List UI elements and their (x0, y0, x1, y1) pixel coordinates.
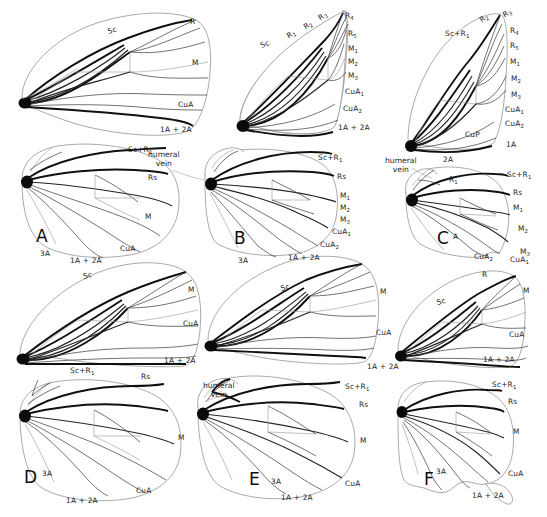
wing-shape-forewing-e (205, 256, 379, 364)
vein-label-subscript: 4 (515, 30, 518, 36)
vein-label-b-hindwing-[object Object]: Sc+R1 (318, 154, 342, 163)
humeral-vein-e-line1: humeral (203, 381, 235, 390)
humeral-vein-a-line2: vein (148, 159, 180, 168)
vein-label-c-hindwing-[object Object]: A (453, 233, 458, 240)
vein-label-a-forewing-[object Object]: M (192, 59, 199, 66)
vein-label-subscript: 1 (348, 231, 351, 237)
vein-label-b-forewing-[object Object]: R5 (348, 30, 357, 39)
vein-label-d-forewing-[object Object]: M (188, 286, 195, 293)
vein-label-subscript: 2 (521, 123, 524, 129)
vein-label-subscript: 5 (353, 33, 356, 39)
venation-plate: ScRMCuA1A + 2ASc+R1RsMCuA1A + 2A3AAScR1R… (0, 0, 547, 517)
vein-label-c-forewing-[object Object]: R5 (510, 42, 519, 51)
vein-label-c-forewing-[object Object]: CuP (465, 131, 480, 138)
vein-label-subscript: 2 (347, 207, 350, 213)
vein-label-d-forewing-[object Object]: Sc (82, 271, 93, 280)
vein-label-e-hindwing-[object Object]: Sc+R1 (345, 383, 369, 392)
vein-label-subscript: 1 (517, 61, 520, 67)
vein-label-b-forewing-[object Object]: R4 (345, 12, 354, 21)
vein-label-b-forewing-[object Object]: M1 (348, 45, 358, 54)
vein-label-subscript: 2 (355, 61, 358, 67)
humeral-vein-c-line1: humeral (385, 156, 417, 165)
vein-label-c-forewing-[object Object]: Sc+R1 (445, 30, 469, 39)
vein-label-subscript: 1 (466, 33, 469, 39)
vein-label-subscript: 3 (347, 219, 350, 225)
vein-label-c-forewing-[object Object]: M2 (511, 75, 521, 84)
vein-label-b-hindwing-[object Object]: 3A (238, 257, 248, 264)
vein-label-c-forewing-[object Object]: R4 (510, 27, 519, 36)
vein-label-b-hindwing-[object Object]: M1 (340, 192, 350, 201)
vein-label-subscript: 2 (336, 244, 339, 250)
humeral-vein-a-line1: humeral (148, 150, 180, 159)
vein-label-e-forewing-[object Object]: Sc (280, 283, 291, 293)
vein-label-a-forewing-[object Object]: 1A + 2A (160, 126, 192, 133)
vein-label-subscript: 1 (454, 179, 457, 185)
vein-label-subscript: 1 (520, 207, 523, 213)
vein-label-subscript: 2 (359, 108, 362, 114)
vein-label-e-hindwing-[object Object]: 1A + 2A (281, 494, 313, 501)
vein-label-e-hindwing-[object Object]: Rs (359, 401, 368, 408)
vein-label-subscript: 1 (355, 48, 358, 54)
vein-label-f-forewing-[object Object]: Sc (436, 297, 447, 307)
humeral-vein-a: humeralvein (148, 150, 180, 169)
vein-label-d-forewing-[object Object]: CuA (183, 320, 199, 327)
vein-label-b-hindwing-[object Object]: M3 (340, 216, 350, 225)
vein-label-b-hindwing-[object Object]: 1A + 2A (288, 254, 320, 261)
vein-label-c-hindwing-[object Object]: M2 (518, 225, 528, 234)
vein-label-subscript: 1 (347, 195, 350, 201)
vein-label-e-hindwing-[object Object]: 3A (271, 478, 281, 485)
vein-label-subscript: 2 (525, 228, 528, 234)
vein-label-d-hindwing-[object Object]: 1A + 2A (66, 497, 98, 504)
panel-letter-e: E (249, 471, 260, 488)
vein-label-subscript: 2 (490, 256, 493, 262)
vein-label-b-forewing-[object Object]: CuA1 (345, 88, 364, 97)
vein-label-a-hindwing-[object Object]: 3A (40, 250, 50, 257)
vein-label-c-forewing-[object Object]: M1 (510, 58, 520, 67)
vein-label-b-hindwing-[object Object]: M2 (340, 204, 350, 213)
vein-label-f-hindwing-[object Object]: M (513, 428, 520, 435)
wing-shape-forewing-d (17, 263, 201, 367)
panel-letter-d: D (24, 469, 37, 486)
vein-label-a-hindwing-[object Object]: 1A + 2A (70, 257, 102, 264)
wing-shape-hindwing-f (397, 381, 514, 504)
vein-label-subscript: 1 (513, 384, 516, 390)
vein-label-c-forewing-[object Object]: 2A (443, 156, 453, 163)
vein-label-d-hindwing-[object Object]: M (178, 434, 185, 441)
vein-label-c-hindwing-[object Object]: M1 (513, 204, 523, 213)
vein-label-c-hindwing-[object Object]: CuA2 (474, 253, 493, 262)
wing-shape-hindwing-d (19, 380, 181, 501)
vein-label-c-hindwing-[object Object]: Sc+R1 (507, 171, 531, 180)
panel-letter-b: B (234, 230, 246, 247)
vein-label-b-forewing-[object Object]: 1A + 2A (338, 124, 370, 131)
humeral-vein-e: humeralvein (203, 381, 235, 400)
vein-label-e-forewing-[object Object]: M (380, 288, 387, 295)
vein-label-b-hindwing-[object Object]: Rs (337, 173, 346, 180)
vein-label-subscript: 2 (518, 78, 521, 84)
vein-label-d-hindwing-[object Object]: Rs (141, 373, 150, 380)
vein-label-f-hindwing-[object Object]: 1A + 2A (472, 492, 504, 499)
panel-letter-a: A (36, 228, 48, 245)
vein-label-subscript: 3 (518, 94, 521, 100)
vein-label-a-hindwing-[object Object]: Rs (148, 174, 157, 181)
vein-label-f-hindwing-[object Object]: Sc+R1 (492, 381, 516, 390)
vein-label-e-forewing-[object Object]: 1A + 2A (367, 363, 399, 370)
panel-letter-c: C (437, 230, 449, 247)
wing-shape-hindwing-c (406, 167, 510, 257)
vein-label-subscript: 1 (526, 259, 529, 265)
vein-label-c-hindwing-[object Object]: Rs (513, 189, 522, 196)
vein-label-subscript: 3 (355, 75, 358, 81)
vein-label-c-forewing-[object Object]: M3 (511, 91, 521, 100)
vein-label-subscript: 1 (521, 109, 524, 115)
vein-label-a-forewing-[object Object]: R (190, 18, 195, 25)
vein-label-f-forewing-[object Object]: M (523, 287, 530, 294)
vein-label-f-hindwing-[object Object]: CuA (508, 470, 524, 477)
vein-label-b-hindwing-[object Object]: CuA2 (320, 241, 339, 250)
vein-label-f-forewing-[object Object]: 1A + 2A (483, 356, 515, 363)
vein-label-c-hindwing-[object Object]: CuA1 (510, 256, 529, 265)
vein-label-f-forewing-[object Object]: CuA (509, 331, 525, 338)
humeral-vein-e-line2: vein (203, 390, 235, 399)
vein-label-a-hindwing-[object Object]: CuA (120, 245, 136, 252)
vein-label-d-hindwing-[object Object]: 3A (42, 470, 52, 477)
vein-label-f-hindwing-[object Object]: 3A (436, 468, 446, 475)
vein-label-subscript: 4 (350, 15, 353, 21)
